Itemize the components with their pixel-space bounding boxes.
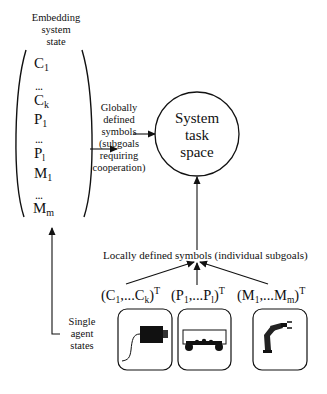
vector-dots: ... — [35, 190, 43, 200]
vector-dots: ... — [35, 81, 43, 91]
label-line: defined — [88, 114, 150, 126]
arrow-camera-to-local — [126, 262, 194, 284]
camera-state-label: (C1,...Ck)T — [101, 285, 160, 305]
label-line: agent — [60, 328, 104, 340]
label-line: (subgoals — [88, 138, 150, 150]
single-agent-states-label: Single agent states — [60, 316, 104, 352]
title-line: state — [20, 36, 92, 48]
local-symbols-label: Locally defined symbols (individual subg… — [103, 249, 308, 261]
diagram-canvas — [0, 0, 327, 394]
label-line: space — [160, 144, 234, 161]
mobile-platform-icon — [183, 330, 226, 351]
embedding-state-title: Embedding system state — [20, 12, 92, 48]
label-line: requiring — [88, 150, 150, 162]
label-line: symbols — [88, 126, 150, 138]
arm-box — [253, 309, 307, 370]
left-parenthesis — [16, 50, 26, 217]
label-line: task — [160, 127, 234, 144]
label-line: System — [160, 110, 234, 127]
global-symbols-label: Globally defined symbols (subgoals requi… — [88, 102, 150, 174]
title-line: system — [20, 24, 92, 36]
task-space-label: System task space — [160, 110, 234, 161]
vector-entry: Pl — [34, 146, 45, 165]
label-line: cooperation) — [88, 162, 150, 174]
vector-entry: Ck — [34, 93, 49, 112]
vector-entry: P1 — [34, 112, 47, 131]
label-line: Single — [60, 316, 104, 328]
label-line: states — [60, 340, 104, 352]
platform-state-label: (P1,...Pl)T — [171, 285, 225, 305]
vector-entry: C1 — [34, 56, 49, 75]
label-line: Globally — [88, 102, 150, 114]
arrow-single-agent-states — [52, 228, 60, 334]
robot-arm-icon — [263, 322, 292, 353]
title-line: Embedding — [20, 12, 92, 24]
vector-entry: Mm — [33, 201, 54, 220]
vector-entry: M1 — [34, 166, 52, 185]
vector-dots: ... — [35, 134, 43, 144]
arm-state-label: (M1,...Mm)T — [237, 285, 305, 305]
arrow-arm-to-local — [200, 262, 268, 284]
camera-icon — [122, 326, 168, 361]
